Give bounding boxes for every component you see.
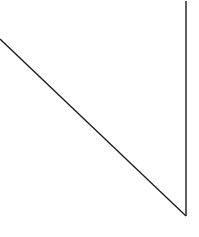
triangle-diagram bbox=[0, 0, 199, 237]
triangle-fill bbox=[0, 2, 186, 217]
